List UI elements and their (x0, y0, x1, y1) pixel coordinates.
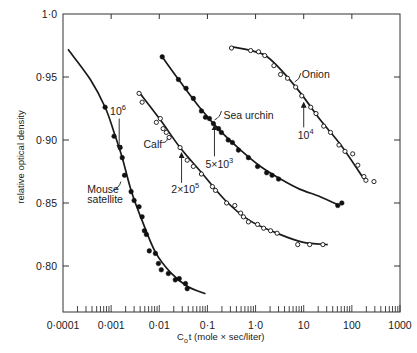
curve-label-sea-urchin: Sea urchin (223, 109, 273, 121)
data-point (159, 267, 164, 272)
data-point (199, 172, 203, 176)
y-tick-label: 0·85 (36, 197, 57, 209)
data-point (272, 64, 276, 68)
data-point (132, 198, 137, 203)
data-point (140, 215, 145, 220)
data-point (239, 211, 243, 215)
data-point (249, 48, 253, 52)
data-point (103, 105, 108, 110)
x-tick-label: 1·0 (248, 319, 263, 331)
y-tick-label: 0·80 (36, 260, 57, 272)
data-point (120, 155, 125, 160)
curve-label-calf: Calf (143, 138, 162, 150)
data-point (122, 173, 127, 178)
curve-label-onion: Onion (302, 68, 330, 80)
data-point (185, 158, 189, 162)
x-tick-label: 0·0001 (47, 319, 80, 331)
data-point (147, 249, 152, 254)
data-points (103, 46, 376, 291)
data-point (270, 173, 275, 178)
data-point (236, 148, 241, 153)
data-point (226, 138, 231, 143)
data-point (144, 232, 149, 237)
mass-annotation: 5×103 (205, 156, 233, 170)
data-point (161, 127, 165, 131)
mass-annotation: 106 (110, 103, 126, 117)
leader-line (215, 111, 222, 120)
data-point (153, 251, 158, 256)
data-point (308, 242, 312, 246)
data-point (154, 120, 158, 124)
data-point (118, 145, 123, 150)
data-point (309, 105, 313, 109)
data-point (184, 86, 189, 91)
data-point (176, 77, 181, 82)
data-point (166, 271, 171, 276)
data-point (140, 100, 144, 104)
data-point (213, 188, 217, 192)
data-point (177, 276, 182, 281)
x-tick-label: 0·01 (149, 319, 170, 331)
fit-curves (68, 47, 364, 294)
data-point (255, 222, 259, 226)
data-point (343, 149, 347, 153)
x-tick-label: 0·001 (98, 319, 125, 331)
data-point (255, 164, 260, 169)
data-point (137, 204, 142, 209)
y-tick-label: 0·95 (36, 71, 57, 83)
y-axis-label: relative optical density (15, 110, 26, 204)
x-axis-label: Cot (mole × sec/liter) (177, 331, 265, 344)
data-point (340, 201, 345, 206)
data-point (278, 72, 282, 76)
data-point (191, 96, 196, 101)
data-point (137, 91, 141, 95)
data-point (356, 163, 360, 167)
x-tick-label: 0·1 (200, 319, 215, 331)
x-axis-ticks (77, 14, 400, 312)
data-point (285, 76, 289, 80)
data-point (263, 53, 267, 57)
data-point (314, 111, 318, 115)
y-tick-label: 1·0 (42, 8, 57, 20)
x-tick-label: 100 (343, 319, 361, 331)
mass-annotation: 2×105 (171, 181, 199, 195)
data-point (185, 286, 190, 291)
data-point (321, 242, 325, 246)
data-point (337, 143, 341, 147)
leader-line (295, 73, 301, 82)
data-point (230, 140, 235, 145)
data-point (112, 134, 117, 139)
data-point (296, 242, 300, 246)
data-point (328, 130, 332, 134)
data-point (210, 185, 214, 189)
data-point (233, 203, 237, 207)
data-point (294, 85, 298, 89)
data-point (229, 46, 233, 50)
y-tick-labels: 1·00·950·900·850·80 (36, 8, 57, 272)
data-point (158, 116, 162, 120)
data-point (160, 55, 165, 60)
data-point (207, 116, 212, 121)
data-point (276, 177, 281, 182)
data-point (364, 178, 368, 182)
data-point (199, 109, 204, 114)
cot-curve-chart: 0·00010·0010·010·11·0101001000 1·00·950·… (0, 0, 417, 353)
data-point (183, 281, 188, 286)
data-point (211, 121, 216, 126)
x-tick-label: 10 (298, 319, 310, 331)
data-point (372, 179, 376, 183)
data-point (246, 155, 251, 160)
data-point (246, 220, 250, 224)
y-tick-label: 0·90 (36, 134, 57, 146)
data-point (256, 50, 260, 54)
data-point (268, 229, 272, 233)
data-point (241, 215, 245, 219)
data-point (264, 170, 269, 175)
data-point (275, 231, 279, 235)
data-point (351, 152, 355, 156)
x-tick-label: 1000 (388, 319, 412, 331)
data-point (156, 261, 161, 266)
data-point (178, 145, 182, 149)
data-point (129, 189, 134, 194)
x-tick-labels: 0·00010·0010·010·11·0101001000 (47, 319, 412, 331)
